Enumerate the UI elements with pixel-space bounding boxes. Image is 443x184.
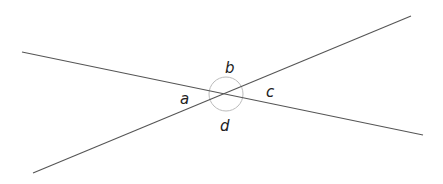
line-2 (33, 16, 411, 173)
angle-diagram: a b c d (0, 0, 443, 184)
angle-label-b: b (225, 59, 235, 77)
angle-label-c: c (266, 83, 275, 101)
diagram-svg: a b c d (0, 0, 443, 184)
angle-label-d: d (220, 117, 230, 135)
angle-label-a: a (180, 90, 189, 108)
